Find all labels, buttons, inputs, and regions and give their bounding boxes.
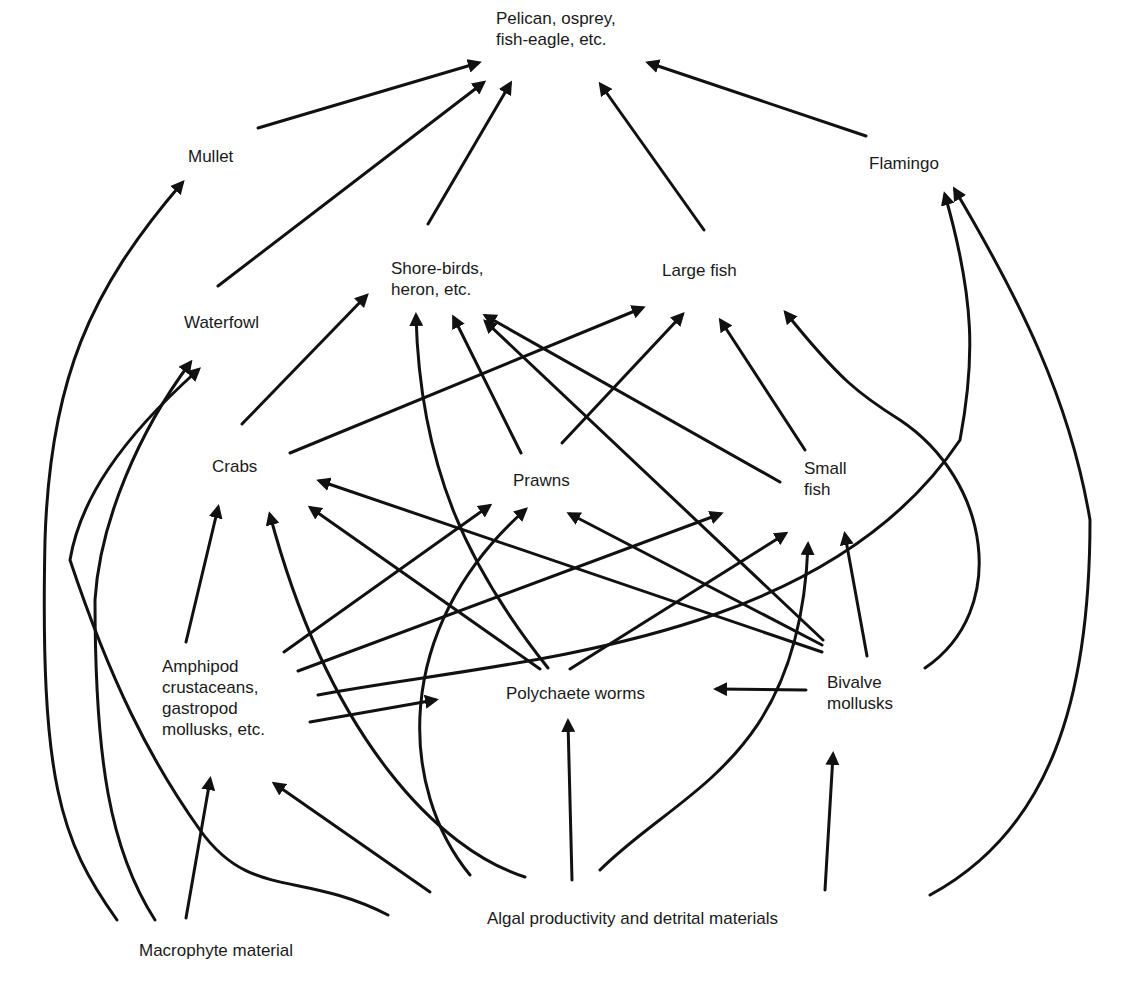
node-crabs: Crabs <box>212 456 257 477</box>
arrow-prawns-to-shorebirds <box>454 318 521 453</box>
node-macrophyte: Macrophyte material <box>139 940 293 961</box>
arrow-bivalve-to-polychaete <box>717 689 806 690</box>
food-web-diagram: Pelican, osprey, fish-eagle, etc.MulletF… <box>0 0 1127 998</box>
node-waterfowl: Waterfowl <box>184 312 259 333</box>
arrow-crabs-to-shorebirds <box>242 296 366 424</box>
node-smallfish: Small fish <box>804 458 847 500</box>
node-amphipod: Amphipod crustaceans, gastropod mollusks… <box>162 656 265 740</box>
arrow-mullet-to-top <box>258 63 478 128</box>
arrow-algal-to-smallfish <box>600 545 808 870</box>
arrow-algal-to-amphipod <box>275 784 430 892</box>
arrow-polychaete-to-crabs <box>311 508 540 669</box>
arrow-algal-to-bivalve <box>825 755 833 890</box>
node-flamingo: Flamingo <box>869 153 939 174</box>
node-polychaete: Polychaete worms <box>506 683 645 704</box>
arrow-macrophyte-to-mullet <box>44 183 182 920</box>
arrow-macrophyte-to-amphipod <box>186 780 210 918</box>
arrow-macrophyte-to-waterfowl <box>95 363 190 920</box>
arrow-smallfish-to-shorebirds <box>486 316 780 482</box>
node-prawns: Prawns <box>513 470 570 491</box>
node-top: Pelican, osprey, fish-eagle, etc. <box>496 8 616 50</box>
node-mullet: Mullet <box>188 146 233 167</box>
arrow-largefish-to-top <box>601 85 704 230</box>
arrow-bivalve-to-smallfish <box>845 535 867 656</box>
arrow-algal-to-flamingo <box>930 190 1090 895</box>
edge-layer <box>0 0 1127 998</box>
arrow-crabs-to-largefish <box>290 308 642 453</box>
arrow-polychaete-to-smallfish <box>570 534 785 669</box>
arrow-flamingo-to-top <box>649 63 866 136</box>
node-shorebirds: Shore-birds, heron, etc. <box>391 258 484 300</box>
arrow-amphipod-to-polychaete <box>310 700 435 722</box>
arrow-polychaete-to-shorebirds <box>416 316 548 668</box>
arrow-smallfish-to-largefish <box>721 321 805 450</box>
node-largefish: Large fish <box>662 260 737 281</box>
arrow-shorebirds-to-top <box>428 84 510 224</box>
arrow-amphipod-to-crabs <box>186 508 218 642</box>
arrow-algal-to-polychaete <box>568 722 572 880</box>
node-algal: Algal productivity and detrital material… <box>487 908 778 929</box>
node-bivalve: Bivalve mollusks <box>827 672 893 714</box>
arrow-amphipod-to-prawns <box>284 506 489 652</box>
arrow-waterfowl-to-top <box>218 83 483 286</box>
